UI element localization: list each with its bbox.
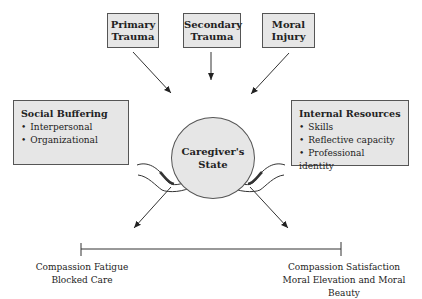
list-item: Reflective capacity: [299, 134, 401, 147]
fatigue-line2: Blocked Care: [22, 274, 142, 287]
list-item: Interpersonal: [21, 121, 121, 134]
social-buffering-box: Social Buffering Interpersonal Organizat…: [13, 100, 129, 165]
caregivers-state-circle: Caregiver's State: [171, 117, 255, 199]
secondary-trauma-line2: Trauma: [184, 31, 240, 43]
list-item: Professional identity: [299, 147, 401, 173]
moral-injury-box: Moral Injury: [262, 13, 315, 48]
social-buffering-title: Social Buffering: [21, 107, 121, 120]
list-item: Organizational: [21, 134, 121, 147]
primary-trauma-box: Primary Trauma: [107, 13, 159, 48]
primary-trauma-line2: Trauma: [108, 31, 158, 43]
secondary-trauma-line1: Secondary: [184, 19, 240, 31]
arrow-to-satisfaction: [250, 187, 288, 228]
list-item: Skills: [299, 121, 401, 134]
arrow-primary: [133, 52, 171, 93]
center-line1: Caregiver's: [182, 145, 245, 158]
internal-resources-title: Internal Resources: [299, 107, 401, 120]
arrow-to-fatigue: [134, 187, 171, 228]
primary-trauma-line1: Primary: [108, 19, 158, 31]
moral-injury-line2: Injury: [263, 31, 314, 43]
compassion-satisfaction-label: Compassion Satisfaction Moral Elevation …: [270, 261, 418, 299]
satisfaction-line2: Moral Elevation and Moral Beauty: [270, 274, 418, 299]
arrow-moral: [251, 53, 289, 94]
secondary-trauma-box: Secondary Trauma: [183, 13, 241, 48]
satisfaction-line1: Compassion Satisfaction: [270, 261, 418, 274]
moral-injury-line1: Moral: [263, 19, 314, 31]
fatigue-line1: Compassion Fatigue: [22, 261, 142, 274]
center-line2: State: [198, 158, 227, 171]
continuum-scale: [81, 242, 341, 256]
compassion-fatigue-label: Compassion Fatigue Blocked Care: [22, 261, 142, 287]
internal-resources-box: Internal Resources Skills Reflective cap…: [291, 100, 409, 166]
